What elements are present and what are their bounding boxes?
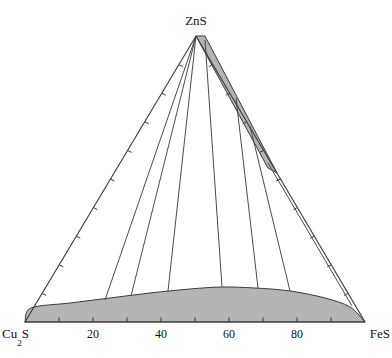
tick-left-50 — [111, 179, 115, 181]
ternary-diagram-canvas: ZnS Cu2S FeS 20406080 — [0, 0, 392, 358]
tie-lines-group — [105, 36, 352, 306]
vertex-label-cu2s: Cu2S — [2, 326, 29, 348]
tick-left-60 — [128, 150, 132, 152]
tick-left-20 — [59, 265, 63, 267]
tick-left-30 — [76, 236, 80, 238]
axis-ticks-group — [42, 65, 348, 322]
tick-left-40 — [93, 208, 97, 210]
tie-line-2 — [131, 36, 196, 296]
ternary-phase-diagram: ZnS Cu2S FeS 20406080 — [0, 0, 392, 358]
tie-line-3 — [168, 36, 196, 291]
triangle-outline — [25, 36, 365, 322]
bottom-tick-label-40: 40 — [155, 327, 167, 341]
bottom-tick-labels-group: 20406080 — [87, 327, 303, 341]
tick-left-80 — [162, 93, 166, 95]
vertex-label-fes: FeS — [370, 326, 390, 341]
bottom-tick-label-80: 80 — [291, 327, 303, 341]
region-cu2s-fes-liquid-band — [25, 287, 365, 322]
tie-line-6 — [250, 126, 290, 291]
tick-left-90 — [179, 65, 183, 67]
tick-left-70 — [145, 122, 149, 124]
tie-line-1 — [105, 36, 196, 300]
tie-line-7 — [268, 163, 352, 306]
vertex-label-zns: ZnS — [185, 13, 207, 28]
tick-left-10 — [42, 293, 46, 295]
bottom-tick-label-20: 20 — [87, 327, 99, 341]
bottom-tick-label-60: 60 — [223, 327, 235, 341]
